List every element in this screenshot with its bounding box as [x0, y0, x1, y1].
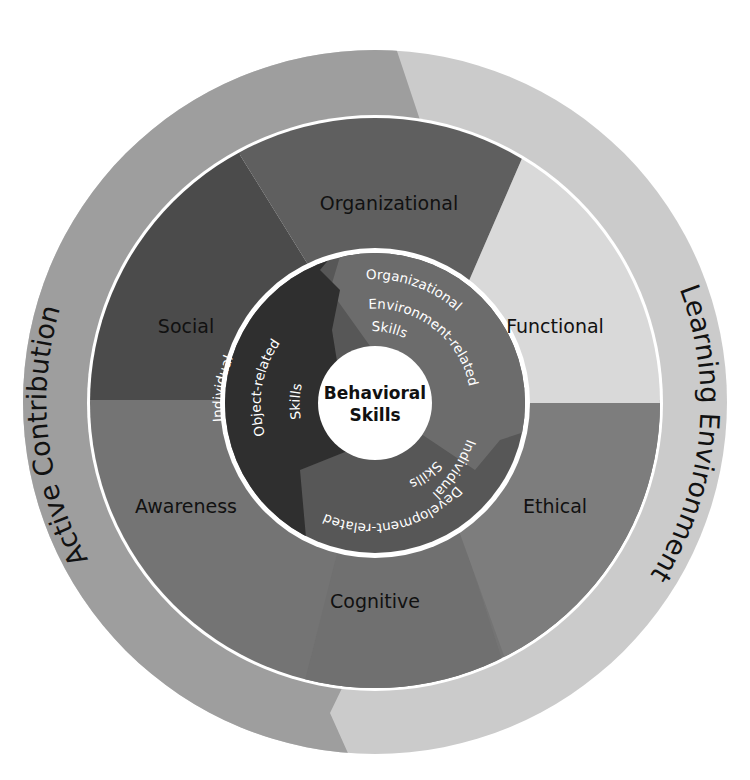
label-functional: Functional — [506, 315, 604, 337]
core-label-line2: Skills — [349, 405, 400, 425]
label-ethical: Ethical — [523, 495, 587, 517]
label-social: Social — [158, 315, 214, 337]
label-organizational: Organizational — [320, 192, 458, 214]
label-cognitive: Cognitive — [330, 590, 420, 612]
diagram-canvas: Organizational Functional Ethical Cognit… — [0, 0, 750, 780]
core-circle — [318, 346, 432, 460]
behavioral-skills-diagram: Organizational Functional Ethical Cognit… — [0, 0, 750, 780]
core-label-line1: Behavioral — [324, 383, 426, 403]
label-object-line3: Skills — [286, 382, 304, 421]
label-awareness: Awareness — [135, 495, 237, 517]
